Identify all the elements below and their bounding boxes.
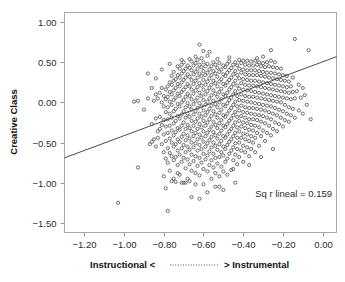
y-tick-label: 1.00 [38, 17, 57, 28]
scatter-plot-figure: −1.20−1.00−0.80−0.60−0.40−0.200.00 1.000… [0, 0, 345, 282]
x-tick-label: −0.40 [231, 239, 255, 250]
x-tick-label: −1.00 [112, 239, 136, 250]
y-tick-label: 0.50 [38, 57, 57, 68]
x-tick-label: −0.60 [191, 239, 215, 250]
x-tick-label: −1.20 [72, 239, 96, 250]
y-tick-label: 0.00 [38, 97, 57, 108]
y-axis-title: Creative Class [8, 89, 19, 154]
x-tick-label: −0.20 [271, 239, 295, 250]
chart-canvas: −1.20−1.00−0.80−0.60−0.40−0.200.00 1.000… [0, 0, 345, 282]
y-tick-label: −0.50 [32, 138, 56, 149]
x-tick-label: 0.00 [314, 239, 333, 250]
x-tick-label: −0.80 [152, 239, 176, 250]
y-tick-label: −1.50 [32, 218, 56, 229]
x-axis-tick-labels: −1.20−1.00−0.80−0.60−0.40−0.200.00 [72, 239, 332, 250]
x-axis-title-right: > Instrumental [224, 259, 289, 270]
x-axis-title-left: Instructional < [90, 259, 156, 270]
y-tick-label: −1.00 [32, 178, 56, 189]
r-squared-annotation: Sq r lineal = 0.159 [255, 188, 332, 199]
